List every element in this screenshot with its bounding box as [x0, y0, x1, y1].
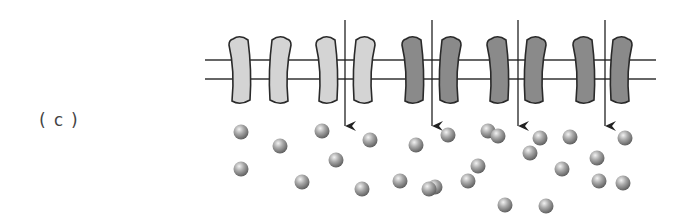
particle-sphere — [563, 130, 578, 145]
channel-protein — [353, 37, 375, 104]
particle-sphere — [355, 182, 370, 197]
particle-sphere — [461, 174, 476, 189]
particle-sphere — [234, 162, 249, 177]
particle-sphere — [273, 139, 288, 154]
channel-protein — [229, 37, 251, 104]
particle-sphere — [234, 125, 249, 140]
particle-sphere — [315, 124, 330, 139]
channel-protein — [487, 37, 509, 104]
channel-protein — [610, 37, 632, 104]
particle-sphere — [471, 159, 486, 174]
particle-sphere — [533, 131, 548, 146]
membrane-diagram — [0, 0, 696, 222]
particle-sphere — [616, 176, 631, 191]
particle-sphere — [295, 175, 310, 190]
particle-sphere — [491, 129, 506, 144]
particle-sphere — [422, 182, 437, 197]
particles — [234, 124, 633, 214]
particle-sphere — [555, 162, 570, 177]
particle-sphere — [590, 151, 605, 166]
channel-protein — [269, 37, 291, 104]
particle-sphere — [441, 128, 456, 143]
particle-sphere — [592, 174, 607, 189]
channel-protein — [402, 37, 424, 104]
channel-proteins — [229, 37, 632, 104]
channel-protein — [524, 37, 546, 104]
particle-sphere — [539, 199, 554, 214]
channel-protein — [573, 37, 595, 104]
particle-sphere — [393, 174, 408, 189]
particle-sphere — [363, 133, 378, 148]
channel-protein — [439, 37, 461, 104]
particle-sphere — [329, 153, 344, 168]
flow-arrows — [345, 20, 605, 126]
particle-sphere — [523, 146, 538, 161]
channel-protein — [316, 37, 338, 104]
particle-sphere — [618, 131, 633, 146]
particle-sphere — [498, 198, 513, 213]
particle-sphere — [409, 138, 424, 153]
